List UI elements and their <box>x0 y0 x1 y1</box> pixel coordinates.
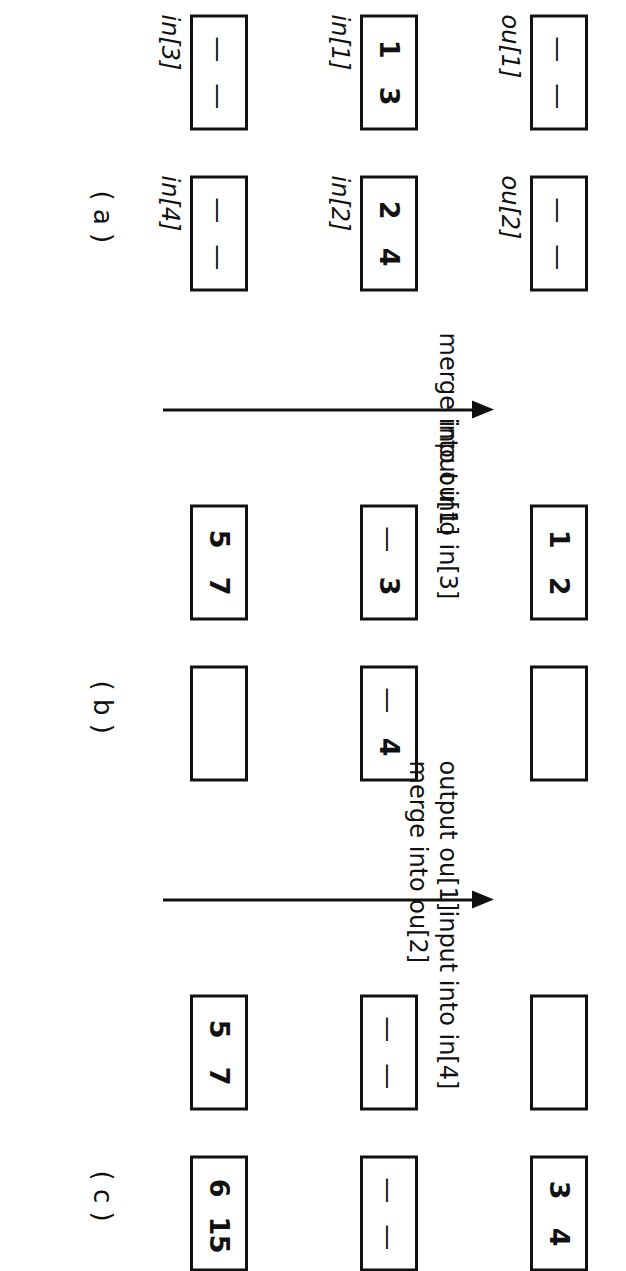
transition-a-to-b: merge into ou[1] input into in[3] <box>0 330 626 490</box>
cell-value: 2 <box>376 196 403 224</box>
transition-line: output ou[1] <box>433 760 463 892</box>
panel-a-label-in1: in[1] <box>328 14 352 70</box>
panel-c-box-in3: 5 7 <box>190 994 248 1110</box>
panel-c: 3 4 — — — — 5 7 6 15 <box>0 980 626 1203</box>
transition-line: merge into ou[1] <box>433 332 463 402</box>
panel-b-box-in3: 5 7 <box>190 504 248 620</box>
transition-b-to-c-above: output ou[1] merge into ou[2] <box>403 760 463 892</box>
panel-b-box-in1: — 3 <box>360 504 418 620</box>
panel-a-caption: ( a ) <box>88 190 118 243</box>
cell-value: 1 <box>376 35 403 63</box>
panel-b-box-in4 <box>190 665 248 781</box>
cell-value: — <box>376 1015 402 1043</box>
panel-a-box-in4: — — <box>190 175 248 291</box>
cell-value: — <box>546 196 572 224</box>
panel-a-label-ou1: ou[1] <box>498 14 522 78</box>
cell-value: 5 <box>206 1015 233 1043</box>
panel-c-box-ou1 <box>530 994 588 1110</box>
cell-value: — <box>376 1176 402 1204</box>
cell-value: 15 <box>206 1216 233 1253</box>
cell-value: — <box>376 686 402 714</box>
transition-b-to-c: output ou[1] merge into ou[2] input into… <box>0 820 626 980</box>
cell-value: 4 <box>376 243 403 271</box>
panel-a-label-in4: in[4] <box>158 175 182 231</box>
cell-value: 1 <box>546 525 573 553</box>
panel-b-caption: ( b ) <box>88 680 118 733</box>
panel-a-label-in2: in[2] <box>328 175 352 231</box>
panel-a-label-in3: in[3] <box>158 14 182 70</box>
cell-value: 7 <box>206 572 233 600</box>
transition-a-to-b-above: merge into ou[1] <box>433 332 463 402</box>
cell-value: — <box>376 1223 402 1251</box>
cell-value: 5 <box>206 525 233 553</box>
panel-a: — — ou[1] — — ou[2] 1 3 in[1] 2 4 in <box>0 0 626 330</box>
panel-b-box-ou2 <box>530 665 588 781</box>
cell-value: 3 <box>546 1176 573 1204</box>
cell-value: — <box>206 243 232 271</box>
panel-c-box-in1: — — <box>360 994 418 1110</box>
panel-b-box-ou1: 1 2 <box>530 504 588 620</box>
panel-c-box-ou2: 3 4 <box>530 1155 588 1271</box>
cell-value: 3 <box>376 572 403 600</box>
cell-value: 2 <box>546 572 573 600</box>
panel-a-box-ou2: — — <box>530 175 588 291</box>
cell-value: — <box>376 1062 402 1090</box>
cell-value: 3 <box>376 82 403 110</box>
cell-value: — <box>376 525 402 553</box>
panel-a-label-ou2: ou[2] <box>498 175 522 239</box>
cell-value: — <box>546 243 572 271</box>
cell-value: 6 <box>206 1173 233 1201</box>
cell-value: 4 <box>546 1223 573 1251</box>
transition-line: merge into ou[2] <box>403 760 433 892</box>
panel-c-box-in4: 6 15 <box>190 1155 248 1271</box>
transition-arrow-shaft <box>163 408 474 411</box>
panel-c-box-in2: — — <box>360 1155 418 1271</box>
cell-value: — <box>206 82 232 110</box>
cell-value: — <box>546 82 572 110</box>
panel-a-box-in3: — — <box>190 14 248 130</box>
cell-value: 4 <box>376 733 403 761</box>
cell-value: — <box>206 35 232 63</box>
cell-value: 7 <box>206 1062 233 1090</box>
panel-a-box-ou1: — — <box>530 14 588 130</box>
transition-arrow-head <box>472 400 494 418</box>
cell-value: — <box>206 196 232 224</box>
transition-arrow-head <box>472 890 494 908</box>
panel-b: 1 2 — 3 — 4 5 7 <box>0 490 626 820</box>
panel-c-caption: ( c ) <box>88 1170 118 1221</box>
cell-value: — <box>546 35 572 63</box>
panel-a-box-in1: 1 3 <box>360 14 418 130</box>
panel-a-box-in2: 2 4 <box>360 175 418 291</box>
